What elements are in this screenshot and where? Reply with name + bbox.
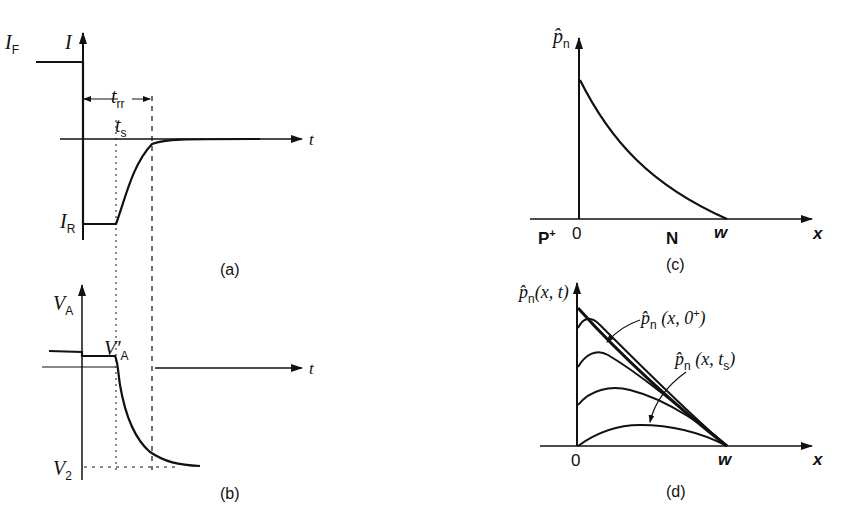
label-width-d: w: [718, 451, 731, 468]
label-voltage-axis: VA: [53, 293, 73, 317]
panel-c-carrier-profile: [530, 38, 812, 219]
label-final-voltage: V2: [53, 458, 72, 482]
label-x-axis-d: x: [813, 451, 822, 468]
label-initial-distribution: p̂n (x, 0+): [641, 308, 706, 331]
label-recovery-time: trr: [111, 86, 125, 110]
panel-d-curve-4: [578, 388, 727, 446]
label-forward-current: IF: [5, 32, 19, 56]
label-p-region: P+: [538, 228, 556, 247]
caption-d: (d): [666, 483, 686, 501]
label-carrier-axis-c: p̂n: [553, 26, 570, 50]
panel-c-profile-curve: [580, 80, 727, 219]
figure-canvas: [0, 0, 841, 521]
label-time-axis-a: t: [309, 131, 314, 148]
caption-b: (b): [220, 485, 240, 503]
label-carrier-axis-d: p̂n(x, t): [519, 283, 569, 305]
label-step-voltage: V′A: [104, 338, 129, 362]
panel-a-current-curve: [36, 62, 260, 224]
label-n-region: N: [666, 230, 678, 247]
panel-b-voltage-transient: [42, 285, 302, 480]
label-origin-c: 0: [572, 225, 581, 242]
label-width-c: w: [714, 224, 727, 241]
label-storage-time: ts: [115, 115, 127, 139]
label-time-axis-b: t: [309, 360, 314, 377]
caption-c: (c): [666, 256, 685, 274]
label-reverse-current: IR: [60, 211, 75, 235]
panel-d-initial-pointer: [607, 320, 640, 342]
label-current-axis: I: [65, 32, 72, 52]
caption-a: (a): [220, 261, 240, 279]
label-origin-d: 0: [571, 452, 580, 469]
label-x-axis-c: x: [813, 225, 822, 242]
label-storage-distribution: p̂n (x, ts): [675, 350, 735, 372]
panel-a-current-transient: [36, 33, 302, 470]
